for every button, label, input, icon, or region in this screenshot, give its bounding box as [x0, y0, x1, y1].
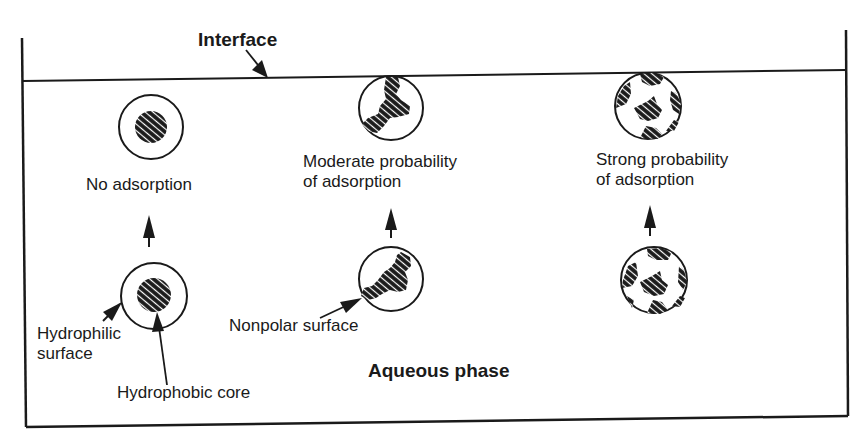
particle-strong-adsorption-icon	[615, 73, 681, 139]
particle-no-adsorption-icon	[119, 95, 183, 159]
aqueous-phase-label: Aqueous phase	[368, 361, 509, 381]
up-arrow-icon	[143, 215, 155, 247]
interface-arrow-icon	[246, 50, 268, 78]
particle-patchy-nonpolar-icon	[621, 247, 687, 314]
up-arrow-icon	[644, 205, 656, 236]
up-arrow-icon	[385, 208, 397, 238]
interface-line	[23, 70, 846, 81]
caption-moderate-probability: Moderate probability of adsorption	[303, 152, 457, 192]
hydrophilic-surface-arrow-icon	[103, 302, 122, 321]
label-nonpolar-surface: Nonpolar surface	[229, 316, 358, 336]
particle-hydrophilic-icon	[121, 263, 187, 329]
label-hydrophobic-core: Hydrophobic core	[117, 383, 250, 403]
nonpolar-surface-arrow-icon	[320, 298, 362, 318]
caption-no-adsorption: No adsorption	[86, 175, 192, 195]
particle-moderate-adsorption-icon	[359, 76, 423, 140]
interface-label: Interface	[198, 30, 277, 50]
particle-partial-nonpolar-icon	[359, 247, 423, 311]
label-hydrophilic-surface: Hydrophilic surface	[37, 324, 121, 364]
caption-strong-probability: Strong probability of adsorption	[596, 150, 728, 190]
